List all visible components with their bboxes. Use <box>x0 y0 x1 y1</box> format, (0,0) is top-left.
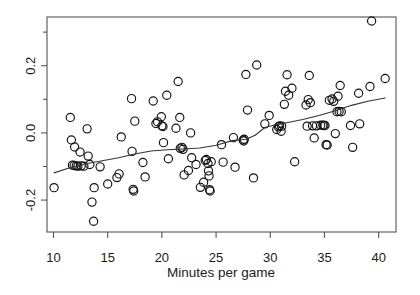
data-point-marker <box>280 100 288 108</box>
data-point-marker <box>205 172 213 180</box>
data-point-marker <box>90 217 98 225</box>
data-point-marker <box>231 163 239 171</box>
data-point-marker <box>163 91 171 99</box>
data-point-marker <box>117 133 125 141</box>
data-point-marker <box>50 184 58 192</box>
y-tick-label: -0.2 <box>24 189 39 211</box>
plot-border-rect <box>47 17 396 232</box>
data-point-marker <box>66 113 74 121</box>
data-point-marker <box>253 61 261 69</box>
y-tick-label: 0.2 <box>24 57 39 75</box>
data-point-marker <box>127 95 135 103</box>
data-point-marker <box>331 129 339 137</box>
data-point-marker <box>192 160 200 168</box>
data-point-marker <box>76 148 84 156</box>
data-point-marker <box>346 121 354 129</box>
y-tick-label: 0.0 <box>24 124 39 142</box>
data-point-marker <box>249 174 257 182</box>
data-point-marker <box>310 134 318 142</box>
data-point-marker <box>305 71 313 79</box>
data-point-marker <box>283 71 291 79</box>
x-tick-label: 25 <box>209 250 223 265</box>
x-axis-ticks <box>54 232 379 238</box>
x-tick-label: 40 <box>371 250 385 265</box>
data-point-marker <box>265 111 273 119</box>
chart-canvas: -0.20.00.2 10152025303540 Minutes per ga… <box>0 0 420 295</box>
data-point-marker <box>381 74 389 82</box>
scatter-plot-figure: -0.20.00.2 10152025303540 Minutes per ga… <box>0 0 420 295</box>
x-tick-label: 35 <box>317 250 331 265</box>
data-point-marker <box>187 129 195 137</box>
data-point-marker <box>141 173 149 181</box>
data-point-marker <box>243 106 251 114</box>
x-tick-label: 10 <box>46 250 60 265</box>
data-point-marker <box>288 84 296 92</box>
data-point-marker <box>90 184 98 192</box>
data-point-marker <box>88 198 96 206</box>
x-tick-label: 20 <box>155 250 169 265</box>
data-point-marker <box>84 152 92 160</box>
y-axis-ticks <box>41 32 47 200</box>
data-point-marker <box>86 160 94 168</box>
data-point-marker <box>242 70 250 78</box>
data-point-marker <box>149 97 157 105</box>
data-point-marker <box>139 158 147 166</box>
data-points-layer <box>50 17 389 225</box>
x-axis-tick-labels: 10152025303540 <box>46 250 386 265</box>
data-point-marker <box>349 143 357 151</box>
data-point-marker <box>176 113 184 121</box>
data-point-marker <box>96 163 104 171</box>
data-point-marker <box>366 82 374 90</box>
data-point-marker <box>104 180 112 188</box>
data-point-marker <box>174 77 182 85</box>
data-point-marker <box>355 89 363 97</box>
x-tick-label: 30 <box>263 250 277 265</box>
data-point-marker <box>291 158 299 166</box>
data-point-marker <box>172 124 180 132</box>
data-point-marker <box>83 125 91 133</box>
data-point-marker <box>336 81 344 89</box>
plot-box <box>47 17 396 232</box>
data-point-marker <box>368 17 376 25</box>
data-point-marker <box>356 120 364 128</box>
x-axis-title: Minutes per game <box>167 265 275 280</box>
data-point-marker <box>131 117 139 125</box>
y-axis-tick-labels: -0.20.00.2 <box>24 57 39 212</box>
data-point-marker <box>159 139 167 147</box>
data-point-marker <box>71 143 79 151</box>
x-tick-label: 15 <box>100 250 114 265</box>
data-point-marker <box>164 155 172 163</box>
data-point-marker <box>219 158 227 166</box>
